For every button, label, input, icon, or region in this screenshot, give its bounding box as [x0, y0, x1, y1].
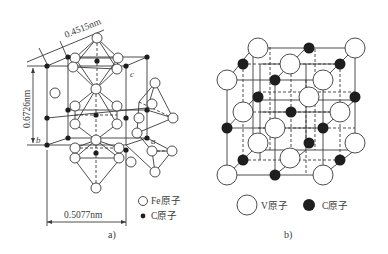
- caption-a: a): [108, 229, 116, 241]
- legend-c-label: C原子: [151, 211, 177, 221]
- axis-label-c: c: [130, 69, 134, 79]
- v-atom-legend-icon: [237, 195, 257, 215]
- axis-label-b: b: [36, 135, 41, 145]
- legend-c-label-b: C原子: [322, 201, 348, 211]
- caption-b: b): [284, 229, 292, 241]
- fe-atom-legend-icon: [139, 197, 148, 206]
- panel-b-legend: V原子 C原子: [237, 195, 348, 215]
- panel-a-legend: Fe原子 C原子: [139, 196, 181, 221]
- c-atom-legend-icon-b: [303, 199, 315, 211]
- dimension-label-bottom: 0.5077nm: [64, 210, 103, 220]
- dimension-label-left: 0.6726nm: [22, 89, 32, 128]
- legend-fe-label: Fe原子: [151, 196, 181, 206]
- figure-canvas: 0.4515nm 0.6726nm 0.5077nm c b a Fe原子 C原…: [0, 0, 388, 254]
- legend-v-label: V原子: [261, 201, 288, 211]
- c-atom-legend-icon: [141, 214, 146, 219]
- axis-label-a: a: [151, 136, 156, 146]
